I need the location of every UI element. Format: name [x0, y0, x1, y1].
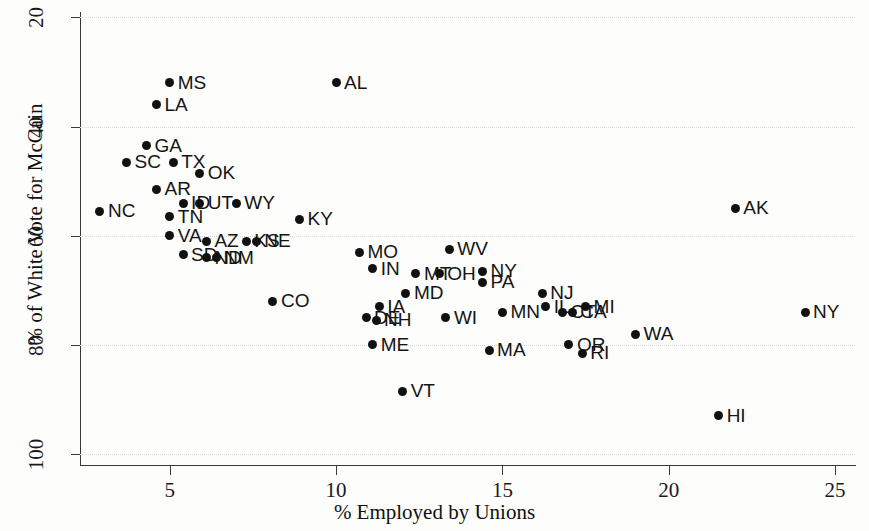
- data-point-label: ME: [381, 335, 410, 354]
- data-point-label: WA: [643, 324, 673, 343]
- data-point-label: AK: [743, 198, 768, 217]
- data-point: [478, 278, 487, 287]
- y-tick-mark: [71, 454, 80, 455]
- data-point-label: VT: [411, 381, 435, 400]
- data-point-label: MN: [510, 302, 540, 321]
- data-point-label: IN: [381, 259, 400, 278]
- data-point-label: NM: [224, 248, 254, 267]
- data-point: [568, 308, 577, 317]
- data-point: [578, 349, 587, 358]
- data-point: [398, 387, 407, 396]
- y-tick-mark: [71, 127, 80, 128]
- data-point: [179, 250, 188, 259]
- data-point-label: MA: [497, 340, 526, 359]
- data-point: [122, 158, 131, 167]
- data-point: [232, 199, 241, 208]
- data-point: [485, 346, 494, 355]
- data-point: [242, 237, 251, 246]
- data-point-label: OH: [447, 264, 476, 283]
- x-tick-mark: [336, 466, 337, 475]
- data-point: [372, 316, 381, 325]
- gridline-y: [80, 345, 855, 346]
- data-point: [445, 245, 454, 254]
- data-point-label: KY: [308, 209, 333, 228]
- data-point-label: WY: [244, 193, 275, 212]
- data-point-label: TN: [178, 207, 203, 226]
- y-tick-label: 100: [24, 433, 49, 477]
- data-point: [362, 313, 371, 322]
- data-point: [169, 158, 178, 167]
- data-point: [212, 253, 221, 262]
- x-tick-mark: [669, 466, 670, 475]
- data-point-label: WV: [457, 239, 488, 258]
- data-point-label: MD: [414, 283, 444, 302]
- data-point-label: AR: [165, 179, 191, 198]
- data-point-label: HI: [727, 406, 746, 425]
- data-point-label: PA: [490, 272, 514, 291]
- data-point-label: CO: [281, 291, 310, 310]
- data-point: [558, 308, 567, 317]
- data-point-label: NY: [813, 302, 839, 321]
- y-tick-mark: [71, 17, 80, 18]
- data-point: [252, 237, 261, 246]
- data-point: [152, 185, 161, 194]
- scatter-plot-figure: 10080604020510152025 MSLAALGASCTXOKARNCI…: [0, 0, 869, 531]
- data-point-label: WI: [454, 308, 477, 327]
- data-point-label: NH: [384, 310, 411, 329]
- data-point-label: LA: [165, 95, 188, 114]
- data-point-label: VA: [178, 226, 202, 245]
- data-point-label: SC: [135, 152, 161, 171]
- data-point: [355, 248, 364, 257]
- data-point: [538, 289, 547, 298]
- x-axis-label: % Employed by Unions: [0, 500, 869, 525]
- data-point: [295, 215, 304, 224]
- data-point: [801, 308, 810, 317]
- data-point: [731, 204, 740, 213]
- data-point-label: NC: [108, 201, 135, 220]
- data-point-label: AL: [344, 73, 367, 92]
- data-point-label: TX: [181, 152, 205, 171]
- y-tick-label: 20: [24, 0, 49, 40]
- y-axis-line: [80, 12, 81, 465]
- data-point: [202, 253, 211, 262]
- data-point-label: MI: [594, 297, 615, 316]
- data-point-label: OK: [208, 163, 235, 182]
- x-axis-line: [80, 465, 856, 466]
- data-point: [195, 169, 204, 178]
- y-tick-mark: [71, 345, 80, 346]
- data-point: [478, 267, 487, 276]
- data-point: [631, 330, 640, 339]
- y-tick-mark: [71, 236, 80, 237]
- data-point: [498, 308, 507, 317]
- data-point-label: MS: [178, 73, 207, 92]
- data-point-label: UT: [208, 193, 233, 212]
- x-tick-mark: [170, 466, 171, 475]
- x-tick-mark: [835, 466, 836, 475]
- data-point-label: RI: [590, 343, 609, 362]
- y-axis-label: % of White Vote for McCain: [23, 55, 48, 395]
- data-point-label: NE: [264, 231, 290, 250]
- gridline-y: [80, 454, 855, 455]
- x-tick-mark: [502, 466, 503, 475]
- gridline-y: [80, 127, 855, 128]
- gridline-y: [80, 17, 855, 18]
